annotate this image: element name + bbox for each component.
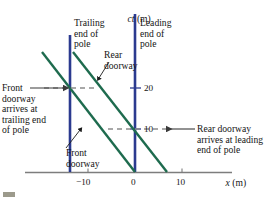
annotation-rear-doorway-arrives: Rear doorway arrives at leading end of p… [197,124,263,156]
spacetime-diagram-figure: ct (m) x (m) −10 0 10 20 10 Trailing end… [0,0,270,202]
label-leading-end-of-pole: Leading end of pole [140,18,171,50]
y-tick-label-20: 20 [144,83,153,93]
x-tick-label-minus10: −10 [76,177,90,187]
label-front-doorway: Front doorway [66,148,100,169]
label-trailing-end-of-pole: Trailing end of pole [74,18,105,50]
y-axis-label-symbol: ct [128,13,135,24]
label-rear-doorway: Rear doorway [104,50,138,71]
x-tick-label-plus10: 10 [176,177,185,187]
page-corner-artifact [3,192,15,197]
x-axis-label: x (m) [216,166,246,199]
leader-front-doorway [66,130,80,148]
x-axis-label-unit: (m) [230,177,246,188]
annotation-front-doorway-arrives: Front doorway arrives at trailing end of… [2,83,46,136]
y-tick-label-10: 10 [144,124,153,134]
x-tick-label-zero: 0 [131,177,136,187]
